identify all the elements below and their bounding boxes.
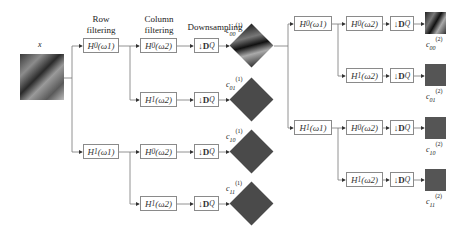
l2-col-filter-2: H1(ω2) — [346, 68, 383, 83]
label-c01-1: c01(1) — [226, 76, 243, 91]
downsample-2: ↓DQ — [194, 92, 219, 107]
col-filter-h0-a: H0(ω2) — [140, 38, 177, 53]
col-filter-h1-b: H1(ω2) — [140, 196, 177, 211]
subband-c01-2 — [425, 64, 446, 86]
input-label: x — [38, 40, 42, 49]
col-filter-h0-b: H0(ω2) — [140, 144, 177, 159]
label-c00-2: c00(2) — [426, 36, 443, 51]
downsample-1: ↓DQ — [194, 38, 219, 53]
subband-c10-2 — [425, 117, 446, 139]
input-image — [20, 54, 64, 100]
downsample-3: ↓DQ — [194, 144, 219, 159]
label-c10-2: c10(2) — [426, 141, 443, 156]
l2-row-filter-h0: H0(ω1) — [294, 16, 332, 31]
label-c00-1: c00(1) — [226, 22, 243, 37]
label-c10-1: c10(1) — [226, 128, 243, 143]
l2-downsample-1: ↓DQ — [390, 16, 414, 31]
l2-row-filter-h1: H1(ω1) — [294, 120, 332, 135]
label-c01-2: c01(2) — [426, 88, 443, 103]
l2-col-filter-3: H0(ω2) — [346, 120, 383, 135]
l2-col-filter-4: H1(ω2) — [346, 172, 383, 187]
subband-c00-2 — [425, 12, 446, 34]
row-filter-h1: H1(ω1) — [83, 144, 119, 159]
l2-downsample-2: ↓DQ — [390, 68, 414, 83]
row-filter-h0: H0(ω1) — [83, 38, 119, 53]
label-c11-1: c11(1) — [226, 180, 242, 195]
header-row-filtering: Row filtering — [80, 14, 122, 36]
downsample-4: ↓DQ — [194, 196, 219, 211]
subband-c11-2 — [425, 169, 446, 191]
l2-downsample-4: ↓DQ — [390, 172, 414, 187]
l2-downsample-3: ↓DQ — [390, 120, 414, 135]
col-filter-h1-a: H1(ω2) — [140, 92, 177, 107]
header-column-filtering: Column filtering — [137, 14, 181, 36]
l2-col-filter-1: H0(ω2) — [346, 16, 383, 31]
label-c11-2: c11(2) — [426, 193, 442, 208]
